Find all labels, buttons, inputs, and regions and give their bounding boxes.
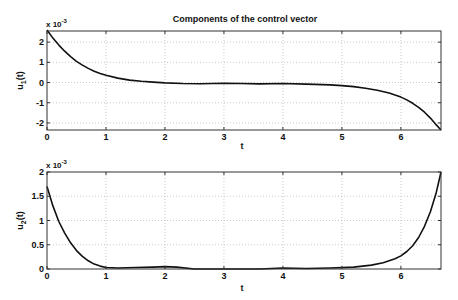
x-tick-label: 0	[44, 132, 49, 142]
y-tick-label: 1.5	[31, 191, 44, 201]
subplot-u1: 0123456-2-1012x 10-3tu1(t)	[15, 18, 441, 151]
y-tick-label: -1	[36, 98, 44, 108]
y-tick-label: 2	[39, 37, 44, 47]
x-tick-label: 1	[103, 132, 108, 142]
x-tick-label: 4	[280, 271, 285, 281]
x-tick-label: 6	[398, 271, 403, 281]
y-tick-label: 0.5	[31, 240, 44, 250]
x-tick-label: 4	[280, 132, 285, 142]
y-axis-label: u2(t)	[15, 211, 27, 229]
y-tick-label: 0	[39, 264, 44, 274]
y-tick-label: 1	[39, 216, 44, 226]
x-axis-label: t	[241, 283, 244, 293]
x-tick-label: 3	[221, 271, 226, 281]
chart-canvas: Components of the control vector 0123456…	[0, 0, 458, 300]
x-axis-label: t	[241, 141, 244, 151]
figure: Components of the control vector 0123456…	[0, 0, 458, 300]
x-tick-label: 1	[103, 271, 108, 281]
y-exponent-label: x 10-3	[46, 18, 68, 29]
y-tick-label: 1	[39, 57, 44, 67]
x-tick-label: 3	[221, 132, 226, 142]
x-tick-label: 2	[162, 271, 167, 281]
x-tick-label: 6	[398, 132, 403, 142]
subplot-u2: 012345600.511.52x 10-3tu2(t)	[15, 159, 441, 293]
y-tick-label: -2	[36, 118, 44, 128]
chart-title: Components of the control vector	[173, 14, 318, 24]
x-tick-label: 0	[44, 271, 49, 281]
y-axis-label: u1(t)	[15, 71, 27, 89]
y-tick-label: 2	[39, 167, 44, 177]
y-exponent-label: x 10-3	[46, 159, 68, 170]
x-tick-label: 2	[162, 132, 167, 142]
x-tick-label: 5	[339, 271, 344, 281]
y-tick-label: 0	[39, 78, 44, 88]
x-tick-label: 5	[339, 132, 344, 142]
